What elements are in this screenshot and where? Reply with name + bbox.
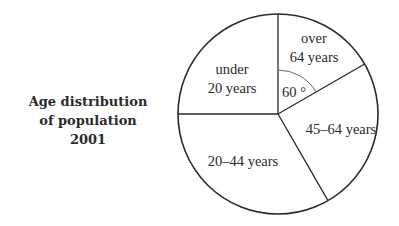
angle-label: 60 ° xyxy=(282,84,306,100)
slice-label-20-44: 20–44 years xyxy=(208,153,279,169)
pie-chart: over 64 years 60 ° 45–64 years 20–44 yea… xyxy=(0,0,399,226)
slice-label-45-64: 45–64 years xyxy=(306,121,377,137)
slice-label-over-64-line1: over xyxy=(301,30,327,46)
slice-label-over-64-line2: 64 years xyxy=(290,49,339,65)
slice-label-under-20-line1: under xyxy=(215,61,248,77)
slice-label-under-20-line2: 20 years xyxy=(208,80,257,96)
